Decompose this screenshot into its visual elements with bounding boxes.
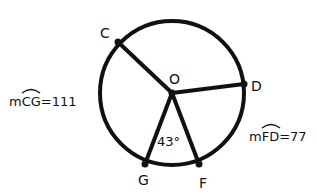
arc-symbol-cg	[22, 90, 40, 94]
point-o	[169, 90, 176, 97]
radius-og	[145, 93, 172, 164]
arc-measure-fd: mFD=77	[249, 125, 307, 145]
point-f	[196, 161, 203, 168]
label-o: O	[169, 71, 180, 87]
arc-cg-value: =111	[41, 94, 77, 109]
arc-cg-name: CG	[22, 94, 41, 109]
label-g: G	[138, 172, 149, 188]
svg-text:mCG=111: mCG=111	[9, 94, 77, 109]
radius-od	[172, 84, 244, 93]
angle-label: 43°	[157, 134, 180, 149]
label-f: F	[199, 175, 207, 191]
point-g	[142, 161, 149, 168]
arc-fd-prefix: m	[249, 129, 262, 144]
circle-diagram: C O D G F 43° mCG=111 mFD=77	[0, 0, 317, 194]
arc-symbol-fd	[262, 125, 280, 129]
point-c	[115, 39, 122, 46]
label-c: C	[100, 25, 110, 41]
arc-fd-name: FD	[262, 129, 280, 144]
point-d	[241, 81, 248, 88]
arc-fd-value: =77	[279, 129, 306, 144]
svg-text:mFD=77: mFD=77	[249, 129, 307, 144]
radius-of	[172, 93, 199, 164]
label-d: D	[251, 78, 262, 94]
radius-oc	[118, 42, 172, 93]
arc-measure-cg: mCG=111	[9, 90, 77, 110]
arc-cg-prefix: m	[9, 94, 22, 109]
